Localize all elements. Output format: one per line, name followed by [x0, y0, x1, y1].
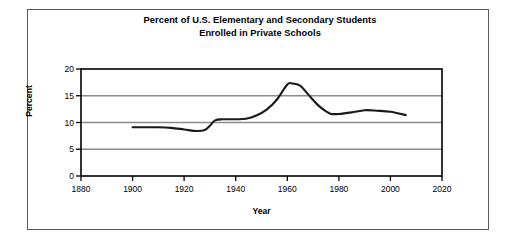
plot-area	[0, 0, 516, 244]
xtick-label-1940: 1940	[211, 184, 261, 194]
xtick-label-1960: 1960	[262, 184, 312, 194]
xtick-label-1980: 1980	[314, 184, 364, 194]
xtick-label-1900: 1900	[108, 184, 158, 194]
ytick-label-5: 5	[48, 144, 74, 154]
xtick-label-1880: 1880	[56, 184, 106, 194]
xtick-label-1920: 1920	[159, 184, 209, 194]
chart-figure: Percent of U.S. Elementary and Secondary…	[0, 0, 516, 244]
gridlines	[81, 96, 442, 150]
xtick-label-2000: 2000	[365, 184, 415, 194]
xtick-label-2020: 2020	[417, 184, 467, 194]
ytick-label-20: 20	[48, 64, 74, 74]
ytick-label-10: 10	[48, 118, 74, 128]
ytick-label-0: 0	[48, 171, 74, 181]
data-series-line	[133, 83, 406, 131]
ytick-label-15: 15	[48, 91, 74, 101]
